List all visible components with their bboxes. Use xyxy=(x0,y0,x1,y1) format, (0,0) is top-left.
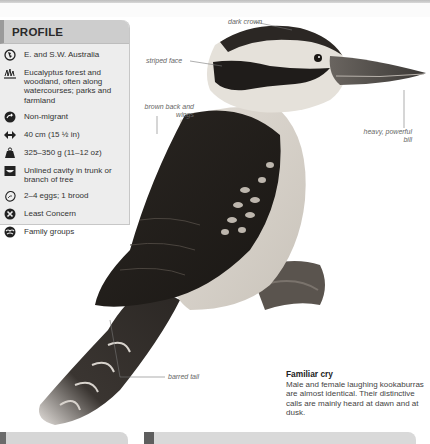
label-striped-face: striped face xyxy=(146,57,182,65)
weight-icon xyxy=(4,147,16,159)
conservation-status-icon xyxy=(4,208,16,220)
label-heavy-bill: heavy, powerful bill xyxy=(360,128,412,144)
profile-item-status: Least Concern xyxy=(0,207,129,222)
profile-item-eggs: 2–4 eggs; 1 brood xyxy=(0,189,129,204)
nest-icon xyxy=(4,165,16,177)
label-barred-tail: barred tail xyxy=(168,373,199,381)
caption-block: Familiar cry Male and female laughing ko… xyxy=(286,370,426,418)
social-group-icon xyxy=(4,226,16,238)
profile-list: E. and S.W. Australia Eucalyptus forest … xyxy=(0,44,129,240)
profile-item-length: 40 cm (15 ½ in) xyxy=(0,128,129,143)
next-section-header-edge xyxy=(144,432,416,444)
profile-title: PROFILE xyxy=(0,20,129,44)
caption-body: Male and female laughing kookaburras are… xyxy=(286,380,426,418)
label-brown-back: brown back and wings xyxy=(144,103,194,119)
profile-item-range: E. and S.W. Australia xyxy=(0,48,129,63)
profile-item-migration: Non-migrant xyxy=(0,110,129,125)
label-dark-crown: dark crown xyxy=(228,18,262,26)
caption-title: Familiar cry xyxy=(286,370,426,380)
profile-panel: PROFILE E. and S.W. Australia Eucalyptus… xyxy=(0,20,130,225)
length-arrows-icon xyxy=(4,129,16,141)
profile-item-nest: Unlined cavity in trunk or branch of tre… xyxy=(0,164,129,186)
globe-icon xyxy=(4,49,16,61)
profile-item-social: Family groups xyxy=(0,225,129,240)
profile-item-habitat: Eucalyptus forest and woodland, often al… xyxy=(0,66,129,107)
egg-icon xyxy=(4,190,16,202)
profile-item-weight: 325–350 g (11–12 oz) xyxy=(0,146,129,161)
next-profile-panel-edge xyxy=(0,432,128,444)
habitat-grass-icon xyxy=(4,67,16,79)
migration-arrow-icon xyxy=(4,111,16,123)
